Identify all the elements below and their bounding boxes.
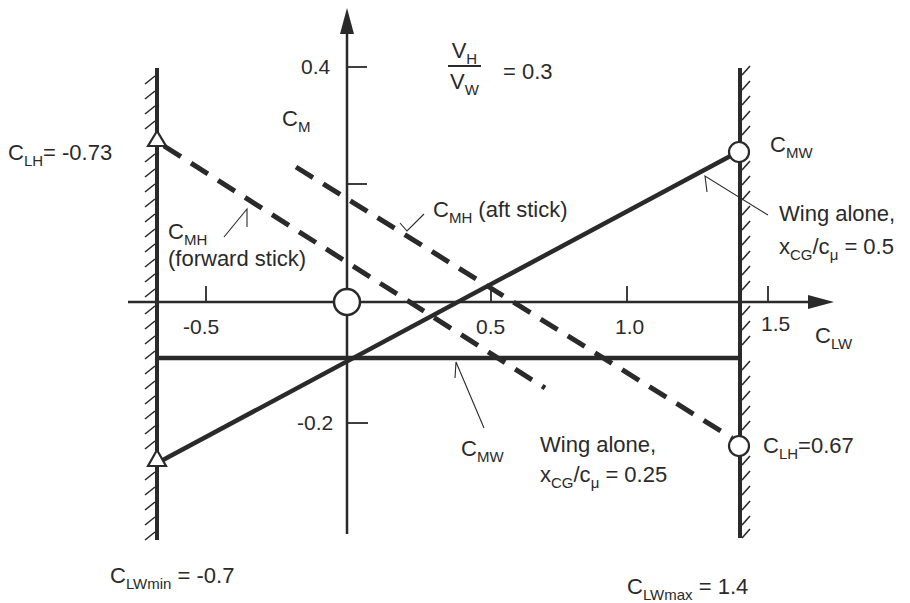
triangle-marker-top-icon [148, 131, 166, 146]
cmh-forward-sublabel: (forward stick) [168, 248, 306, 270]
markers [148, 131, 749, 466]
circle-marker-clh-icon [729, 436, 749, 456]
tick-label-y-m02: -0.2 [297, 412, 333, 433]
clw-max-label: CLWmax = 1.4 [627, 576, 748, 598]
circle-marker-origin-icon [334, 289, 360, 315]
cmh-aft-label: CMH (aft stick) [433, 199, 568, 221]
tick-label-x-m05: -0.5 [183, 316, 219, 337]
clh-right-label: CLH=0.67 [763, 435, 854, 457]
cm-axis-title: CM [282, 108, 310, 130]
clw-min-label: CLWmin = -0.7 [110, 565, 234, 587]
wing-alone-025-label: Wing alone, [540, 434, 656, 456]
leader-cmw-bottom [455, 362, 484, 428]
wing-alone-05-label: Wing alone, [779, 203, 895, 225]
circle-marker-cmw-icon [729, 142, 749, 162]
cmw-bottom-label: CMW [461, 438, 504, 460]
clw-axis-title: CLW [815, 325, 852, 347]
clw-axis-arrow-icon [808, 295, 834, 309]
cmw-top-label: CMW [770, 134, 813, 156]
tick-label-x-10: 1.0 [615, 316, 644, 337]
volume-ratio-fraction: VH VW [448, 40, 481, 93]
tick-label-y-04: 0.4 [301, 56, 330, 77]
cmh-forward-label: CMH [168, 221, 207, 243]
wing-alone-025-ratio: xCG/cμ = 0.25 [540, 464, 667, 486]
volume-ratio-value: = 0.3 [503, 61, 553, 83]
leader-cmh-aft [400, 214, 424, 231]
tick-label-x-15: 1.5 [761, 313, 790, 334]
leader-wing-alone-05 [705, 176, 768, 215]
leader-cmh-forward [224, 209, 247, 237]
tick-label-x-05: 0.5 [476, 316, 505, 337]
clh-left-label: CLH= -0.73 [8, 142, 112, 164]
wing-alone-05-ratio: xCG/cμ = 0.5 [779, 236, 894, 258]
cm-axis-arrow-icon [340, 8, 354, 34]
